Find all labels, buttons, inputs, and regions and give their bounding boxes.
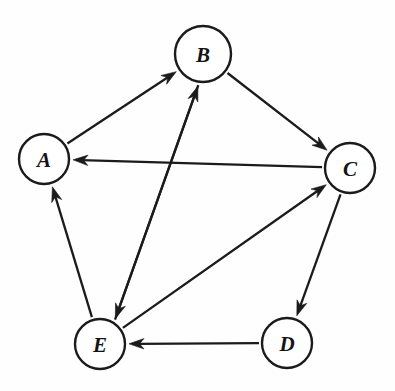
arrowhead-icon (161, 72, 176, 85)
node-e[interactable]: E (75, 319, 125, 369)
nodes-layer: ABCDE (19, 26, 375, 369)
edge-line (67, 76, 169, 143)
edge-line (227, 73, 320, 145)
node-label: D (278, 332, 294, 356)
node-c[interactable]: C (325, 143, 375, 193)
edge-c-to-d (297, 194, 341, 315)
edge-a-to-b (67, 72, 176, 144)
edge-e-to-a (52, 187, 92, 317)
node-d[interactable]: D (262, 318, 312, 368)
node-b[interactable]: B (175, 26, 231, 82)
edge-line (123, 189, 320, 327)
edge-b-to-c (227, 73, 327, 150)
edge-e-to-c (123, 185, 326, 328)
edge-line (81, 160, 322, 167)
edge-line (55, 195, 92, 318)
node-label: A (35, 148, 51, 172)
arrowhead-icon (311, 185, 326, 198)
node-label: B (195, 43, 210, 67)
edge-c-to-a (73, 155, 322, 167)
edge-line (300, 194, 341, 308)
directed-graph-canvas: ABCDE (0, 0, 395, 391)
node-a[interactable]: A (19, 134, 69, 184)
node-label: C (343, 157, 358, 181)
edges-layer (52, 72, 341, 349)
edge-d-to-e (129, 339, 259, 349)
node-label: E (92, 333, 107, 357)
edge-line (137, 343, 259, 344)
